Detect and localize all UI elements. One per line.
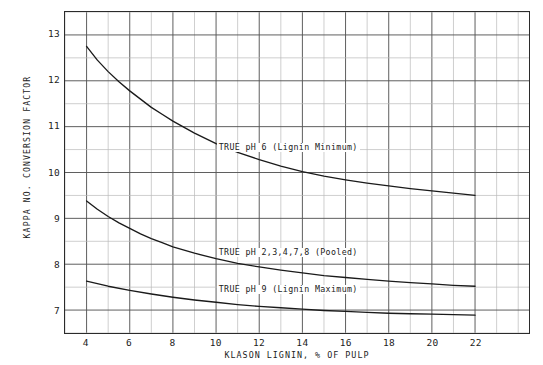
plot-area: TRUE pH 6 (Lignin Minimum)TRUE pH 2,3,4,… (64, 11, 530, 334)
x-tick-14: 14 (287, 337, 317, 348)
x-tick-10: 10 (201, 337, 231, 348)
x-tick-16: 16 (331, 337, 361, 348)
y-tick-9: 9 (34, 213, 60, 224)
x-axis-tick-labels: 46810121416182022 (64, 337, 530, 351)
x-tick-18: 18 (374, 337, 404, 348)
curve-1 (87, 46, 475, 195)
x-tick-20: 20 (418, 337, 448, 348)
x-tick-4: 4 (71, 337, 101, 348)
curve-3 (87, 281, 475, 315)
y-tick-10: 10 (34, 167, 60, 178)
x-tick-6: 6 (114, 337, 144, 348)
y-axis-tick-labels: 78910111213 (30, 11, 60, 334)
y-tick-11: 11 (34, 120, 60, 131)
y-tick-12: 12 (34, 74, 60, 85)
data-curves (65, 12, 529, 333)
curve-2 (87, 201, 475, 286)
x-tick-12: 12 (244, 337, 274, 348)
chart-page: KAPPA NO. CONVERSION FACTOR 78910111213 … (0, 0, 543, 365)
y-tick-13: 13 (34, 28, 60, 39)
y-tick-8: 8 (34, 259, 60, 270)
x-tick-22: 22 (461, 337, 491, 348)
x-tick-8: 8 (157, 337, 187, 348)
y-tick-7: 7 (34, 305, 60, 316)
x-axis-title: KLASON LIGNIN, % OF PULP (64, 350, 530, 360)
